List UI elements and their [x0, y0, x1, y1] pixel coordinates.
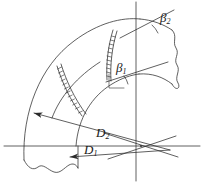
label-d1-subscript: 1 — [93, 149, 97, 158]
label-d2: D2 — [96, 125, 109, 141]
label-d2-symbol: D — [96, 125, 105, 140]
technical-drawing-canvas — [0, 0, 203, 183]
center-ray-upper-left — [104, 133, 178, 157]
label-beta2-subscript: 2 — [166, 17, 170, 26]
wavy-break-line-bottom — [24, 160, 78, 172]
label-beta1: β1 — [116, 60, 127, 76]
vane-band-outer-edge-a — [57, 66, 82, 116]
label-beta1-subscript: 1 — [122, 67, 126, 76]
angle-arc-beta2 — [152, 25, 158, 33]
wavy-break-line-right — [172, 30, 179, 89]
arc-center-point — [140, 145, 142, 147]
label-d1: D1 — [84, 142, 97, 158]
center-ray-lower-left — [108, 136, 176, 159]
inner-wall-arc-right — [139, 74, 172, 84]
hatched-vane-band-outer — [57, 64, 86, 116]
label-beta2: β2 — [160, 10, 171, 26]
label-d2-subscript: 2 — [105, 132, 109, 141]
label-d1-symbol: D — [84, 142, 93, 157]
throat-arc — [52, 62, 100, 118]
vane-band-outer-ticks — [58, 67, 83, 113]
